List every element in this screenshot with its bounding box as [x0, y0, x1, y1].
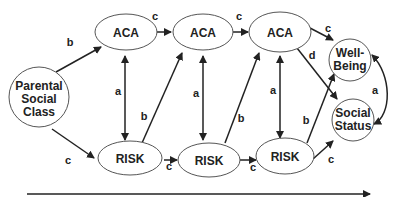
svg-text:Class: Class: [23, 105, 55, 119]
node-risk-2: RISK: [178, 143, 240, 177]
path-diagram: b c c c c d c c c b b b a a a a Parental…: [0, 0, 400, 197]
node-well-being: Well- Being: [329, 39, 371, 81]
svg-text:RISK: RISK: [195, 154, 224, 168]
label-aca3-risk3: a: [270, 84, 277, 96]
edge-parental-aca1: [56, 47, 101, 72]
label-aca2-aca3: c: [236, 10, 242, 22]
svg-text:Being: Being: [333, 59, 366, 73]
label-aca2-risk2: a: [193, 87, 200, 99]
edge-risk2-aca3: [225, 53, 259, 143]
svg-text:ACA: ACA: [113, 26, 139, 40]
label-risk2-aca3: b: [238, 112, 245, 124]
svg-text:RISK: RISK: [271, 150, 300, 164]
label-risk1-aca2: b: [141, 110, 148, 122]
node-risk-1: RISK: [98, 141, 162, 175]
label-risk3-wellbeing: b: [303, 114, 310, 126]
label-aca1-aca2: c: [152, 10, 158, 22]
label-parental-aca1: b: [67, 36, 74, 48]
node-social-status: Social Status: [332, 99, 374, 141]
node-parental-social-class: Parental Social Class: [9, 67, 69, 127]
edge-risk3-wellbeing: [307, 74, 334, 143]
label-risk2-risk3: c: [250, 161, 256, 173]
edge-parental-risk1: [52, 129, 94, 158]
label-aca3-wellbeing: c: [325, 22, 331, 34]
label-aca3-socialstatus: d: [309, 49, 316, 61]
svg-text:Well-: Well-: [336, 46, 364, 60]
svg-text:Social: Social: [21, 92, 56, 106]
label-wellbeing-socialstatus: a: [372, 84, 379, 96]
svg-text:Status: Status: [335, 119, 372, 133]
node-risk-3: RISK: [256, 138, 314, 174]
label-risk1-risk2: c: [166, 160, 172, 172]
node-aca-2: ACA: [173, 14, 233, 50]
svg-text:ACA: ACA: [267, 26, 293, 40]
node-aca-3: ACA: [249, 12, 311, 52]
svg-text:Parental: Parental: [15, 79, 62, 93]
edge-risk1-aca2: [142, 53, 182, 143]
label-aca1-risk1: a: [115, 85, 122, 97]
svg-text:ACA: ACA: [190, 26, 216, 40]
label-risk3-socialstatus: c: [328, 153, 334, 165]
node-aca-1: ACA: [95, 14, 157, 50]
label-parental-risk1: c: [65, 154, 71, 166]
svg-text:Social: Social: [335, 106, 370, 120]
svg-text:RISK: RISK: [116, 152, 145, 166]
